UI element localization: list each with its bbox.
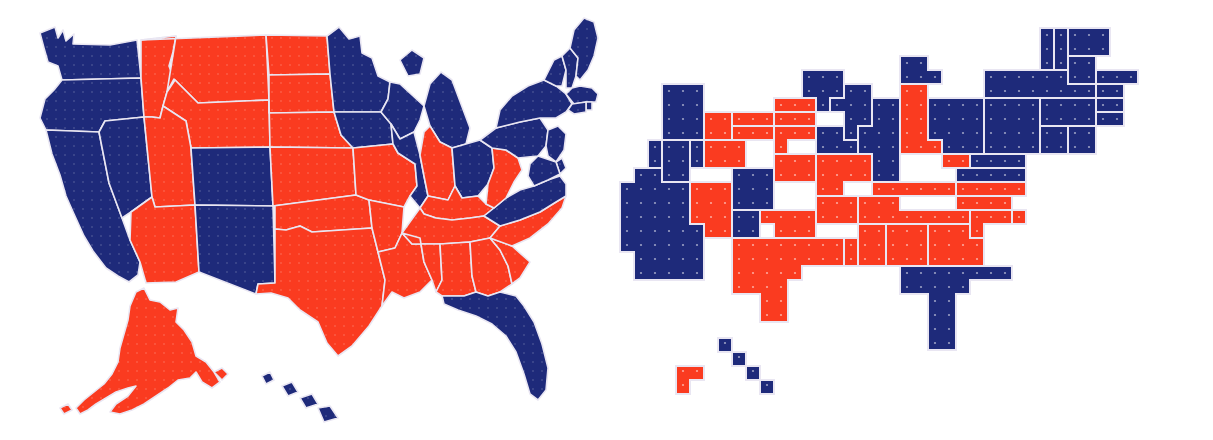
cart-state-KS[interactable] [774,154,816,182]
cart-state-VT[interactable] [1040,28,1054,70]
geographic-map-panel[interactable] [0,0,606,440]
cart-state-PA[interactable] [984,98,1040,154]
cart-state-CO[interactable] [732,168,774,210]
state-RI[interactable] [586,102,592,110]
cart-state-ME[interactable] [1068,28,1110,56]
geographic-map-svg[interactable] [0,0,606,440]
cart-state-NV[interactable] [662,140,690,182]
state-NM[interactable] [195,205,275,294]
state-HI[interactable] [262,372,338,422]
state-AK[interactable] [60,288,228,414]
state-SD[interactable] [269,74,334,113]
cart-state-RI[interactable] [1096,112,1124,126]
cart-state-TN[interactable] [858,196,970,224]
cart-state-HI[interactable] [718,338,774,394]
state-FL[interactable] [442,292,548,400]
cart-state-OK[interactable] [760,210,816,238]
state-TX[interactable] [256,226,385,356]
state-ND[interactable] [266,35,330,75]
cart-state-AL[interactable] [886,224,928,266]
state-AZ[interactable] [130,197,199,283]
state-CO[interactable] [191,147,273,206]
cart-state-SD[interactable] [774,112,816,126]
cart-state-UT[interactable] [704,140,746,168]
cart-state-TX[interactable] [732,238,844,322]
cart-state-MO[interactable] [816,154,872,196]
cart-state-NH[interactable] [1054,28,1068,70]
cartogram-map-panel[interactable] [606,0,1213,440]
cart-state-AK[interactable] [676,366,704,394]
cart-state-MT[interactable] [732,112,774,126]
cart-state-NJ[interactable] [1040,98,1096,126]
cart-state-DE[interactable] [1068,126,1096,154]
cartogram-map-svg[interactable] [606,0,1213,440]
state-NJ[interactable] [546,126,566,162]
cart-state-ND[interactable] [774,98,816,112]
cart-state-SC[interactable] [970,210,1012,238]
cart-state-WY[interactable] [732,126,774,140]
cart-state-FL[interactable] [900,266,1012,350]
state-WA[interactable] [40,27,141,80]
cart-state-MS[interactable] [858,224,886,266]
cart-state-NE[interactable] [774,126,816,154]
state-MN[interactable] [327,27,390,112]
cart-state-AR[interactable] [816,196,858,224]
election-map-figure: Democratic Republican [0,0,1213,440]
cart-state-MD[interactable] [1040,126,1068,154]
cart-state-WA[interactable] [662,84,704,140]
cart-state-ID[interactable] [704,112,732,140]
